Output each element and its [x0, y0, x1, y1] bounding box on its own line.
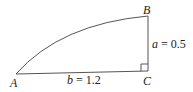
vertex-label-B: B — [143, 4, 150, 16]
side-a-value: = 0.5 — [158, 37, 186, 51]
side-label-b: b = 1.2 — [67, 74, 101, 86]
side-label-a: a = 0.5 — [152, 38, 186, 50]
right-angle-marker — [141, 64, 148, 71]
triangle-diagram: B A C a = 0.5 b = 1.2 — [0, 0, 193, 92]
arc-AB — [16, 16, 148, 74]
vertex-label-C: C — [143, 75, 151, 87]
side-b-value: = 1.2 — [73, 73, 101, 87]
vertex-label-A: A — [10, 77, 17, 89]
